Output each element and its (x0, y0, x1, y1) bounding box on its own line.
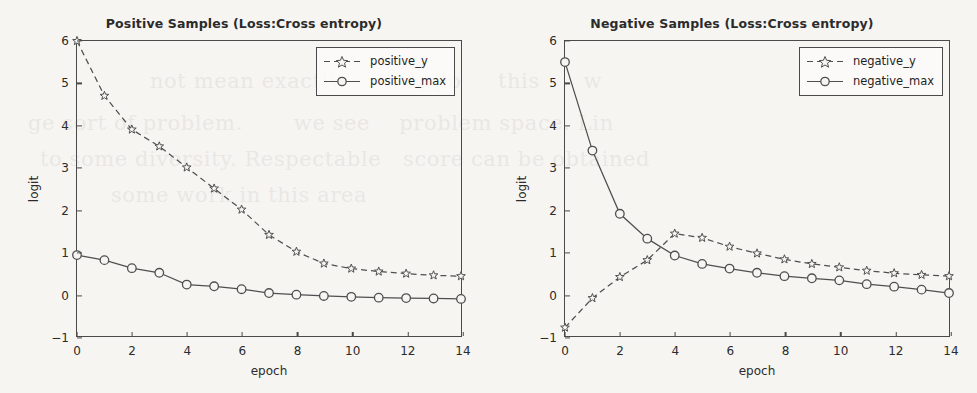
chart-panel-negative: Negative Samples (Loss:Cross entropy) lo… (488, 0, 976, 393)
data-point-negative_max-10 (835, 276, 844, 285)
data-point-negative_y-10 (835, 263, 844, 271)
data-point-negative_max-7 (753, 269, 762, 278)
data-point-positive_max-6 (237, 285, 246, 294)
figure: Positive Samples (Loss:Cross entropy) lo… (0, 0, 977, 393)
legend-marker-star-dashed-icon (323, 55, 361, 68)
data-point-positive_max-8 (292, 290, 301, 299)
data-point-negative_y-7 (753, 249, 762, 257)
legend-label-negative-y: negative_y (853, 56, 916, 68)
plot-area-positive: logit epoch positive_y positive_max (76, 40, 462, 337)
legend-entry-negative-y: negative_y (806, 53, 934, 70)
x-axis-label-negative: epoch (565, 364, 949, 378)
data-point-negative_max-9 (808, 274, 817, 283)
data-point-negative_y-6 (725, 242, 734, 250)
plot-area-negative: logit epoch negative_y negative_max (564, 40, 950, 337)
x-tick-positive-10: 10 (345, 336, 360, 358)
data-point-negative_max-12 (890, 282, 899, 291)
x-tick-negative-0: 0 (561, 336, 569, 358)
data-point-positive_max-5 (210, 282, 219, 291)
x-tick-negative-4: 4 (671, 336, 679, 358)
data-point-negative_max-3 (643, 234, 652, 243)
x-axis-label-positive: epoch (77, 364, 461, 378)
data-point-negative_y-8 (780, 255, 789, 263)
data-point-positive_y-13 (429, 271, 438, 279)
data-point-positive_max-9 (320, 292, 329, 301)
legend-negative: negative_y negative_max (799, 47, 943, 96)
x-tick-negative-8: 8 (782, 336, 790, 358)
y-tick-positive-4: 4 (61, 119, 77, 133)
x-tick-positive-0: 0 (73, 336, 81, 358)
y-tick-positive-0: 0 (61, 289, 77, 303)
y-axis-label-negative: logit (515, 175, 529, 201)
y-tick-negative-4: 4 (549, 119, 565, 133)
chart-panel-positive: Positive Samples (Loss:Cross entropy) lo… (0, 0, 488, 393)
data-point-negative_max-4 (670, 251, 679, 260)
data-point-negative_max-1 (588, 146, 597, 155)
x-tick-negative-2: 2 (616, 336, 624, 358)
data-point-negative_max-6 (725, 264, 734, 273)
x-tick-positive-2: 2 (128, 336, 136, 358)
series-line-negative_max (565, 62, 949, 293)
y-tick-positive-1: 1 (61, 246, 77, 260)
data-point-negative_max-0 (561, 58, 570, 67)
y-tick-negative-6: 6 (549, 34, 565, 48)
data-point-positive_y-8 (292, 247, 301, 255)
data-point-positive_max-4 (182, 280, 191, 289)
legend-positive: positive_y positive_max (316, 47, 455, 96)
y-tick-positive-2: 2 (61, 204, 77, 218)
y-tick-negative-1: 1 (549, 246, 565, 260)
data-point-positive_y-14 (457, 272, 466, 280)
data-point-negative_y-12 (890, 269, 899, 277)
x-tick-positive-12: 12 (400, 336, 415, 358)
x-tick-negative-14: 14 (943, 336, 958, 358)
y-tick-positive-3: 3 (61, 161, 77, 175)
data-point-positive_max-3 (155, 269, 164, 278)
y-tick-negative-3: 3 (549, 161, 565, 175)
x-tick-positive-6: 6 (239, 336, 247, 358)
legend-label-negative-max: negative_max (853, 76, 934, 88)
data-point-positive_y-9 (320, 259, 329, 267)
data-point-negative_max-5 (698, 260, 707, 269)
data-point-negative_y-5 (698, 233, 707, 241)
data-point-negative_y-13 (917, 270, 926, 278)
y-tick-positive-5: 5 (61, 76, 77, 90)
legend-label-positive-max: positive_max (370, 76, 446, 88)
data-point-negative_y-1 (588, 293, 597, 301)
legend-entry-positive-y: positive_y (323, 53, 446, 70)
data-point-negative_y-9 (808, 259, 817, 267)
data-point-positive_max-7 (265, 289, 274, 298)
legend-marker-star-dashed-icon (806, 55, 844, 68)
data-point-negative_max-11 (862, 280, 871, 289)
y-tick-negative-0: 0 (549, 289, 565, 303)
data-point-negative_max-13 (917, 285, 926, 294)
data-point-negative_y-11 (862, 266, 871, 274)
chart-title-negative: Negative Samples (Loss:Cross entropy) (488, 16, 976, 31)
x-tick-positive-4: 4 (183, 336, 191, 358)
y-tick-negative-2: 2 (549, 204, 565, 218)
x-tick-positive-14: 14 (455, 336, 470, 358)
data-point-negative_max-8 (780, 272, 789, 281)
data-point-positive_max-10 (347, 293, 356, 302)
data-point-positive_y-1 (100, 91, 109, 99)
data-point-positive_y-4 (182, 163, 191, 171)
data-point-negative_max-2 (616, 210, 625, 219)
legend-marker-circle-solid-icon (806, 75, 844, 88)
legend-entry-positive-max: positive_max (323, 73, 446, 90)
legend-marker-circle-solid-icon (323, 75, 361, 88)
legend-entry-negative-max: negative_max (806, 73, 934, 90)
data-point-positive_max-2 (128, 264, 137, 273)
data-point-positive_max-1 (100, 256, 109, 265)
data-point-positive_max-14 (457, 295, 466, 304)
legend-label-positive-y: positive_y (370, 56, 428, 68)
data-point-negative_max-14 (945, 289, 954, 298)
x-tick-negative-12: 12 (888, 336, 903, 358)
x-tick-negative-10: 10 (833, 336, 848, 358)
data-point-positive_max-11 (374, 293, 383, 302)
x-tick-positive-8: 8 (294, 336, 302, 358)
y-axis-label-positive: logit (27, 175, 41, 201)
data-point-positive_y-10 (347, 264, 356, 272)
y-tick-positive-6: 6 (61, 34, 77, 48)
data-point-positive_y-11 (374, 267, 383, 275)
x-tick-negative-6: 6 (727, 336, 735, 358)
data-point-negative_y-14 (945, 272, 954, 280)
